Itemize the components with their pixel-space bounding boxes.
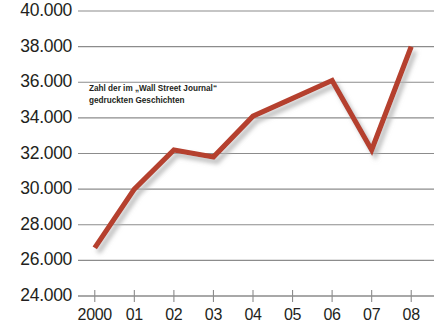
x-axis-tick-label: 05 <box>284 306 301 324</box>
y-axis-tick-label: 32.000 <box>0 143 72 164</box>
x-axis-tick-label: 2000 <box>78 306 112 324</box>
y-axis-tick-label: 28.000 <box>0 214 72 235</box>
annotation-line-2: gedruckten Geschichten <box>89 95 254 107</box>
y-axis-tick-label: 34.000 <box>0 107 72 128</box>
x-axis-tick-label: 02 <box>165 306 182 324</box>
annotation-line-1: Zahl der im „Wall Street Journal“ <box>89 83 254 95</box>
x-axis-tick-label: 01 <box>126 306 143 324</box>
y-axis-tick-label: 24.000 <box>0 285 72 306</box>
y-axis-tick-label: 26.000 <box>0 249 72 270</box>
y-axis-tick-label: 38.000 <box>0 36 72 57</box>
data-series-line <box>95 47 411 248</box>
gridlines-group <box>78 11 434 296</box>
series-annotation: Zahl der im „Wall Street Journal“ gedruc… <box>89 83 254 106</box>
y-axis-tick-label: 40.000 <box>0 0 72 21</box>
y-axis-tick-label: 30.000 <box>0 178 72 199</box>
x-axis-tick-label: 08 <box>403 306 420 324</box>
chart-container: 40.00038.00036.00034.00032.00030.00028.0… <box>0 0 434 331</box>
y-axis-tick-label: 36.000 <box>0 71 72 92</box>
x-axis-tick-label: 03 <box>205 306 222 324</box>
x-axis-tick-label: 06 <box>324 306 341 324</box>
x-axis-tick-label: 04 <box>244 306 261 324</box>
x-axis-tick-label: 07 <box>363 306 380 324</box>
